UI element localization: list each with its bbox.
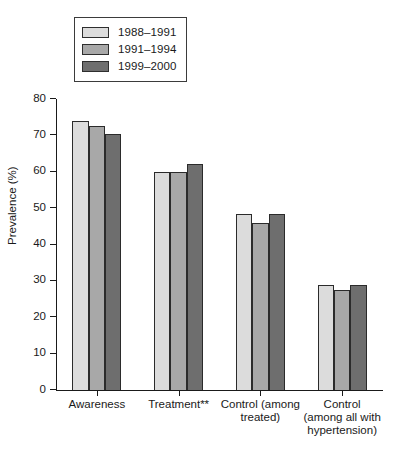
x-axis-tick-label: Treatment** <box>138 398 220 411</box>
y-axis-tick-label: 80 <box>33 93 46 105</box>
y-axis-tick: 10 <box>50 353 56 354</box>
bar <box>350 285 366 390</box>
legend-swatch-icon <box>82 27 109 38</box>
bar <box>89 126 105 390</box>
y-axis-tick-label: 70 <box>33 129 46 141</box>
legend-label: 1999–2000 <box>118 61 176 73</box>
legend-swatch-icon <box>82 44 109 55</box>
bar <box>154 172 170 390</box>
legend-swatch-icon <box>82 61 109 72</box>
bar-group <box>154 99 203 390</box>
bar <box>252 223 268 390</box>
legend-label: 1991–1994 <box>118 44 176 56</box>
legend-label: 1988–1991 <box>118 27 176 39</box>
y-axis-tick-label: 40 <box>33 238 46 250</box>
bar-group <box>318 99 367 390</box>
x-axis-line <box>56 390 383 391</box>
bar-group <box>236 99 285 390</box>
y-axis-tick: 50 <box>50 207 56 208</box>
y-axis-tick-label: 10 <box>33 347 46 359</box>
y-axis-tick: 40 <box>50 244 56 245</box>
y-axis-tick-label: 30 <box>33 275 46 287</box>
legend-item: 1988–1991 <box>82 24 176 41</box>
y-axis-tick: 30 <box>50 280 56 281</box>
bar <box>334 290 350 390</box>
y-axis-tick-label: 50 <box>33 202 46 214</box>
legend-item: 1999–2000 <box>82 58 176 75</box>
y-axis-tick: 60 <box>50 171 56 172</box>
y-axis-label: Prevalence (%) <box>7 166 19 245</box>
bar <box>236 214 252 390</box>
y-axis-tick: 70 <box>50 134 56 135</box>
bar-chart: 1988–1991 1991–1994 1999–2000 Prevalence… <box>0 0 400 455</box>
bar <box>318 285 334 390</box>
x-axis-tick <box>97 390 98 396</box>
x-axis-tick <box>260 390 261 396</box>
y-axis-line <box>56 99 57 391</box>
bar <box>72 121 88 390</box>
x-axis-tick <box>179 390 180 396</box>
bar <box>105 134 121 390</box>
y-axis-tick-label: 60 <box>33 166 46 178</box>
legend-item: 1991–1994 <box>82 41 176 58</box>
x-axis-tick-label: Control (among all with hypertension) <box>301 398 383 437</box>
y-axis-tick-label: 0 <box>40 384 46 396</box>
y-axis-tick: 0 <box>50 389 56 390</box>
bar-group <box>72 99 121 390</box>
plot-area: 01020304050607080 AwarenessTreatment**Co… <box>56 99 383 391</box>
y-axis-tick: 80 <box>50 98 56 99</box>
bar <box>170 172 186 390</box>
y-axis-tick: 20 <box>50 316 56 317</box>
x-axis-tick-label: Control (among treated) <box>220 398 302 424</box>
bar <box>269 214 285 390</box>
bar <box>187 164 203 390</box>
x-axis-tick-label: Awareness <box>56 398 138 411</box>
chart-legend: 1988–1991 1991–1994 1999–2000 <box>74 17 187 82</box>
x-axis-tick <box>342 390 343 396</box>
y-axis-tick-label: 20 <box>33 311 46 323</box>
